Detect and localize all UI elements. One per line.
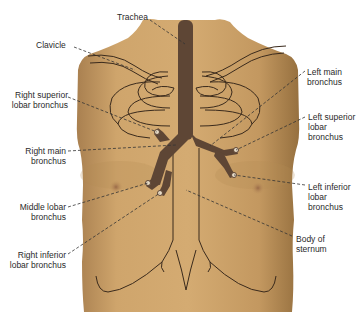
label-left-main-bronchus: Left main bronchus <box>307 67 342 87</box>
label-body-of-sternum: Body of sternum <box>296 234 327 254</box>
label-middle-lobar-bronchus: Middle lobar bronchus <box>8 202 66 222</box>
left-nipple <box>251 181 265 195</box>
right-nipple <box>109 180 123 194</box>
label-right-main-bronchus: Right main bronchus <box>8 146 66 166</box>
trachea-shape <box>178 20 193 140</box>
label-right-superior-lobar-bronchus: Right superior lobar bronchus <box>8 90 68 110</box>
chest-bronchial-tree-diagram: Trachea Clavicle Right superior lobar br… <box>0 0 361 323</box>
label-clavicle: Clavicle <box>36 40 66 50</box>
label-right-inferior-lobar-bronchus: Right inferior lobar bronchus <box>4 250 66 270</box>
label-left-inferior-lobar-bronchus: Left inferior lobar bronchus <box>308 182 351 212</box>
label-left-superior-lobar-bronchus: Left superior lobar bronchus <box>308 112 355 142</box>
label-trachea: Trachea <box>117 12 148 22</box>
